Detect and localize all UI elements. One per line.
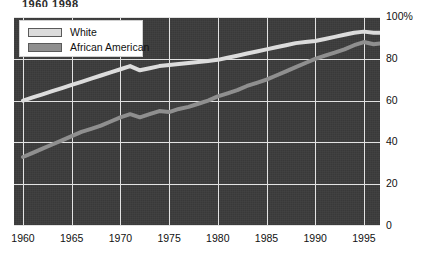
legend-swatch-white [28, 28, 62, 37]
chart-title-fragment: 1960 1998 [22, 0, 79, 7]
x-axis-tick-label: 1960 [11, 232, 34, 244]
x-axis-tick-label: 1970 [109, 232, 132, 244]
legend-label-white: White [70, 27, 97, 38]
x-axis-tick-label: 1980 [206, 232, 229, 244]
x-axis-tick-label: 1975 [157, 232, 180, 244]
y-axis-tick-label: 0 [386, 220, 392, 231]
legend-item-white: White [28, 25, 142, 40]
y-axis-tick-label: 80 [386, 53, 398, 64]
series-line-african-american [23, 42, 380, 157]
y-axis-tick-label: 20 [386, 178, 398, 189]
x-axis-tick-label: 1965 [60, 232, 83, 244]
legend-swatch-african-american [28, 43, 62, 52]
y-axis-tick-label: 40 [386, 136, 398, 147]
chart-legend: White African American [19, 20, 143, 57]
legend-item-african-american: African American [28, 40, 142, 55]
x-axis-tick-label: 1995 [352, 232, 375, 244]
legend-label-african-american: African American [70, 42, 149, 53]
x-axis-tick-label: 1985 [255, 232, 278, 244]
y-axis-tick-label: 60 [386, 95, 398, 106]
y-axis-tick-label: 100% [386, 11, 413, 22]
x-axis-tick-label: 1990 [304, 232, 327, 244]
